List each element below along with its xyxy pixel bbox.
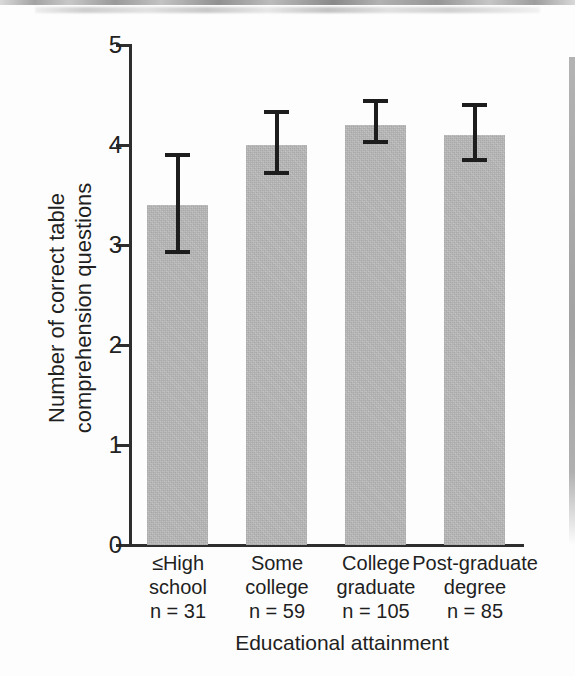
y-axis-title-line-1: Number of correct table [43,183,70,434]
error-bar-cap-bottom-3 [363,140,388,144]
y-tick-label-3: 3 [78,231,122,259]
error-bar-cap-bottom-1 [165,250,190,254]
error-bar-cap-top-1 [165,153,190,157]
bar-chart: Number of correct table comprehension qu… [0,0,575,676]
error-bar-cap-bottom-4 [462,158,487,162]
y-axis-title: Number of correct table comprehension qu… [43,183,97,434]
error-bar-cap-bottom-2 [264,171,289,175]
error-bar-line-2 [275,112,279,173]
bar-3 [345,125,406,545]
x-category-label-4-line-3: n = 85 [400,599,550,623]
y-tick-label-1: 1 [78,431,122,459]
error-bar-cap-top-3 [363,99,388,103]
error-bar-line-3 [374,101,378,142]
y-axis-title-line-2: comprehension questions [70,183,97,434]
error-bar-line-1 [176,155,180,252]
x-category-label-4-line-1: Post-graduate [400,551,550,575]
y-tick-label-5: 5 [78,31,122,59]
bar-2 [246,145,307,545]
y-tick-label-4: 4 [78,131,122,159]
error-bar-line-4 [473,105,477,160]
figure-canvas: Number of correct table comprehension qu… [0,0,575,676]
y-tick-label-2: 2 [78,331,122,359]
error-bar-cap-top-2 [264,110,289,114]
error-bar-cap-top-4 [462,103,487,107]
y-axis-line [129,44,132,547]
x-category-label-4-line-2: degree [400,575,550,599]
x-category-label-4: Post-graduatedegreen = 85 [400,551,550,623]
x-axis-title: Educational attainment [235,631,449,655]
bar-1 [147,205,208,545]
bar-4 [444,135,505,545]
